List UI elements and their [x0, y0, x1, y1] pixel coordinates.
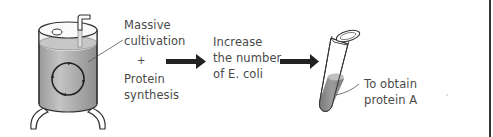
arrow-right-icon: [280, 54, 319, 69]
label-line: of E. coli: [213, 66, 281, 82]
test-tube-icon: [319, 28, 360, 111]
label-line: synthesis: [124, 87, 179, 103]
label-massive-cultivation: Massive cultivation: [124, 17, 186, 49]
label-line: Increase: [213, 34, 281, 50]
label-obtain-protein: To obtain protein A: [364, 76, 417, 108]
label-line: Massive: [124, 17, 186, 33]
fermenter-tank-icon: [31, 15, 123, 129]
label-plus: +: [137, 53, 145, 69]
label-line: To obtain: [364, 76, 417, 92]
label-line: protein A: [364, 92, 417, 108]
speck: [446, 94, 448, 96]
label-line: cultivation: [124, 33, 186, 49]
label-protein-synthesis: Protein synthesis: [124, 71, 179, 103]
diagram-canvas: Massive cultivation + Protein synthesis …: [0, 0, 493, 137]
label-line: Protein: [124, 71, 179, 87]
label-line: the number: [213, 50, 281, 66]
label-increase-ecoli: Increase the number of E. coli: [213, 34, 281, 82]
arrow-right-icon: [166, 54, 206, 69]
frame-border: [489, 0, 491, 137]
